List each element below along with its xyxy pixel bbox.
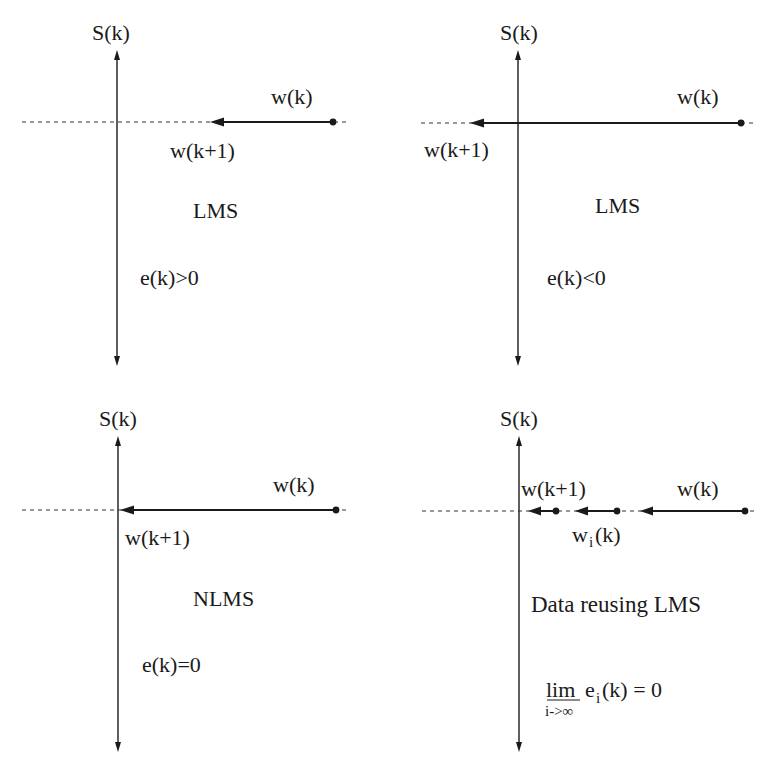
error-symbol: e bbox=[585, 677, 595, 702]
arrowhead-left-icon bbox=[470, 119, 484, 128]
panel-lms-negative-error: S(k) w(k) w(k+1) LMS e(k)<0 bbox=[421, 20, 753, 366]
algorithm-label: LMS bbox=[595, 193, 640, 218]
algorithm-label: NLMS bbox=[193, 586, 254, 611]
condition-limit-expression: lim i->∞ e i (k) = 0 bbox=[545, 677, 662, 719]
start-point-dot bbox=[330, 119, 337, 126]
intermediate-label-tail: (k) bbox=[595, 522, 621, 547]
condition-label: e(k)>0 bbox=[140, 265, 199, 290]
end-label: w(k+1) bbox=[125, 525, 190, 550]
algorithm-label: Data reusing LMS bbox=[531, 592, 701, 617]
panel-nlms: S(k) w(k) w(k+1) NLMS e(k)=0 bbox=[22, 406, 348, 752]
arrow-down-icon bbox=[515, 356, 521, 366]
end-label: w(k+1) bbox=[170, 138, 235, 163]
intermediate-label-subscript: i bbox=[589, 534, 593, 550]
end-label: w(k+1) bbox=[424, 137, 489, 162]
arrow-down-icon bbox=[516, 742, 522, 752]
start-label: w(k) bbox=[273, 472, 315, 497]
condition-label: e(k)=0 bbox=[142, 652, 201, 677]
start-point-dot bbox=[333, 507, 340, 514]
axis-label: S(k) bbox=[92, 20, 130, 45]
error-tail: (k) = 0 bbox=[602, 677, 662, 702]
error-subscript: i bbox=[596, 690, 600, 706]
arrowhead-left-icon bbox=[528, 507, 541, 516]
arrowhead-left-icon bbox=[210, 118, 224, 127]
algorithm-label: LMS bbox=[193, 198, 238, 223]
end-label: w(k+1) bbox=[521, 476, 586, 501]
arrowhead-left-icon bbox=[120, 506, 134, 515]
arrowhead-left-icon bbox=[640, 507, 653, 516]
arrow-up-icon bbox=[114, 50, 120, 60]
intermediate-label: w i (k) bbox=[572, 522, 621, 550]
limit-operator: lim bbox=[546, 677, 575, 702]
axis-label: S(k) bbox=[99, 406, 137, 431]
start-point-dot bbox=[742, 508, 749, 515]
near-final-point-dot bbox=[553, 508, 560, 515]
panel-lms-positive-error: S(k) w(k) w(k+1) LMS e(k)>0 bbox=[22, 20, 346, 366]
arrow-up-icon bbox=[515, 50, 521, 60]
arrow-up-icon bbox=[115, 436, 121, 446]
intermediate-label-main: w bbox=[572, 522, 588, 547]
arrow-down-icon bbox=[115, 742, 121, 752]
limit-subscript: i->∞ bbox=[545, 703, 573, 719]
figure-canvas: S(k) w(k) w(k+1) LMS e(k)>0 S(k) w(k) w(… bbox=[0, 0, 773, 771]
panel-data-reusing-lms: S(k) w(k) w(k+1) w i (k) Data reusing LM… bbox=[422, 406, 756, 752]
start-point-dot bbox=[738, 120, 745, 127]
start-label: w(k) bbox=[271, 84, 313, 109]
start-label: w(k) bbox=[677, 476, 719, 501]
condition-label: e(k)<0 bbox=[547, 265, 606, 290]
axis-label: S(k) bbox=[500, 406, 538, 431]
arrow-down-icon bbox=[114, 356, 120, 366]
axis-label: S(k) bbox=[500, 20, 538, 45]
arrow-up-icon bbox=[516, 436, 522, 446]
intermediate-point-dot bbox=[614, 508, 621, 515]
start-label: w(k) bbox=[677, 84, 719, 109]
arrowhead-left-icon bbox=[575, 507, 588, 516]
